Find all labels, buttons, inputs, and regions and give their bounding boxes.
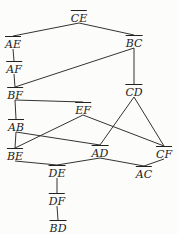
edge-CE-AE <box>13 23 79 36</box>
diagram-edges <box>0 0 178 234</box>
edge-EF-BE <box>15 115 83 148</box>
node-BD: BD <box>50 220 67 234</box>
edge-CD-AD <box>100 97 134 145</box>
edge-EF-CF <box>83 115 164 146</box>
node-CF: CF <box>156 146 172 160</box>
node-BC: BC <box>126 35 143 49</box>
node-AD: AD <box>92 145 109 159</box>
edge-DF-BD <box>57 206 58 220</box>
node-AB: AB <box>8 119 24 133</box>
node-BF: BF <box>7 87 23 101</box>
node-AE: AE <box>5 36 21 50</box>
node-CE: CE <box>71 10 87 24</box>
node-DF: DF <box>49 193 65 207</box>
node-AC: AC <box>136 166 152 180</box>
edge-BC-BF <box>15 48 134 87</box>
node-EF: EF <box>75 102 91 116</box>
node-DE: DE <box>49 165 66 179</box>
edge-BF-EF <box>15 100 83 102</box>
edge-CE-BC <box>79 23 134 35</box>
edge-CD-CF <box>134 97 164 146</box>
edge-AB-BE <box>15 132 16 148</box>
node-AF: AF <box>6 61 22 75</box>
edge-AB-AD <box>16 132 100 145</box>
node-BE: BE <box>7 148 23 162</box>
edge-BF-AB <box>15 100 16 119</box>
node-CD: CD <box>125 84 142 98</box>
